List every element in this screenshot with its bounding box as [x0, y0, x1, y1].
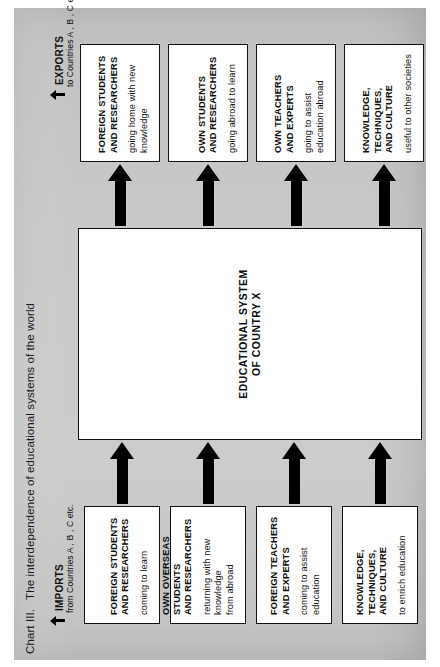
exports-label: EXPORTS	[54, 36, 65, 85]
output-box-title: OWN STUDENTS AND RESEARCHERS	[197, 53, 220, 153]
output-box: OWN STUDENTS AND RESEARCHERS going abroa…	[168, 44, 248, 162]
output-box-subtitle: going home with new knowledge	[127, 53, 150, 153]
input-box-title: KNOWLEDGE, TECHNIQUES, AND CULTURE	[355, 515, 389, 615]
input-box-subtitle: coming to assist education	[299, 515, 322, 615]
exports-caption: EXPORTS to Countries A , B , C etc.	[50, 0, 75, 100]
imports-caption: IMPORTS from Countries A , B , C etc.	[50, 504, 75, 626]
output-box-subtitle: useful to other societies	[403, 53, 414, 153]
output-box-subtitle: going to assist education abroad	[303, 53, 326, 153]
flow-arrow-icon	[196, 164, 220, 226]
chart-canvas: Chart III. The interdependence of educat…	[14, 8, 426, 660]
central-system-box: EDUCATIONAL SYSTEM OF COUNTRY X	[78, 228, 422, 440]
flow-arrow-icon	[110, 442, 134, 504]
input-box-title: FOREIGN TEACHERS AND EXPERTS	[269, 515, 292, 615]
arrow-up-icon	[50, 89, 65, 100]
imports-label: IMPORTS	[54, 564, 65, 611]
flow-arrow-icon	[196, 442, 220, 504]
input-box: FOREIGN TEACHERS AND EXPERTS coming to a…	[256, 506, 332, 624]
output-box-title: KNOWLEDGE, TECHNIQUES, AND CULTURE	[361, 53, 395, 153]
flow-arrow-icon	[282, 442, 306, 504]
page-title: The interdependence of educational syste…	[24, 303, 36, 600]
imports-sublabel: from Countries A , B , C etc.	[65, 504, 75, 626]
arrow-up-icon	[50, 615, 65, 626]
input-box-title: OWN OVERSEAS STUDENTS AND RESEARCHERS	[161, 515, 195, 615]
output-box: OWN TEACHERS AND EXPERTS going to assist…	[256, 44, 336, 162]
input-box-title: FOREIGN STUDENTS AND RESEARCHERS	[109, 515, 132, 615]
flow-arrow-icon	[368, 442, 392, 504]
scanned-page: Chart III. The interdependence of educat…	[0, 0, 440, 667]
output-box-title: FOREIGN STUDENTS AND RESEARCHERS	[97, 53, 120, 153]
flow-arrow-icon	[108, 164, 132, 226]
output-box: FOREIGN STUDENTS AND RESEARCHERS going h…	[80, 44, 160, 162]
input-box-subtitle: returning with new knowledge from abroad	[202, 515, 236, 615]
exports-sublabel: to Countries A , B , C etc.	[65, 0, 75, 100]
chart-heading: Chart III. The interdependence of educat…	[20, 214, 40, 654]
input-box: OWN OVERSEAS STUDENTS AND RESEARCHERS re…	[170, 506, 246, 624]
output-box-title: OWN TEACHERS AND EXPERTS	[273, 53, 296, 153]
central-system-label: EDUCATIONAL SYSTEM OF COUNTRY X	[237, 269, 263, 398]
chart-number: Chart III.	[24, 609, 36, 654]
input-box-subtitle: coming to learn	[139, 515, 150, 615]
output-box-subtitle: going abroad to learn	[227, 53, 238, 153]
input-box: KNOWLEDGE, TECHNIQUES, AND CULTURE to en…	[342, 506, 418, 624]
output-box: KNOWLEDGE, TECHNIQUES, AND CULTURE usefu…	[344, 44, 424, 162]
input-box-subtitle: to enrich education	[397, 515, 408, 615]
flow-arrow-icon	[372, 164, 396, 226]
input-box: FOREIGN STUDENTS AND RESEARCHERS coming …	[84, 506, 160, 624]
flow-arrow-icon	[284, 164, 308, 226]
